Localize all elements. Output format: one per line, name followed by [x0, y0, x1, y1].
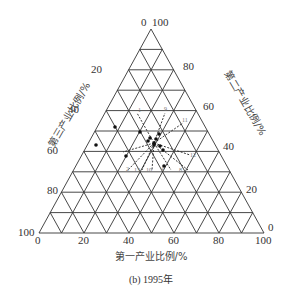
data-point	[138, 130, 142, 134]
triangle-grid	[39, 29, 264, 233]
point-label: 11	[182, 117, 188, 123]
bottom-axis-title: 第一产业比例/%	[115, 250, 188, 262]
grid-line	[107, 90, 185, 233]
data-point	[152, 143, 156, 147]
left-tick-100: 100	[18, 226, 35, 238]
right-tick-60: 60	[203, 100, 215, 112]
data-point	[154, 137, 158, 141]
point-label: 4	[161, 166, 164, 172]
point-label: 12	[190, 152, 196, 158]
grid-line	[117, 90, 196, 233]
right-tick-40: 40	[223, 140, 235, 152]
figure-caption: (b) 1995年	[129, 273, 173, 286]
bottom-tick-0: 0	[35, 234, 41, 246]
data-point	[148, 136, 152, 140]
bottom-tick-100: 100	[255, 234, 272, 246]
data-point	[158, 144, 162, 148]
bottom-tick-20: 20	[78, 234, 90, 246]
dashed-connector	[142, 143, 154, 170]
apex-label-left: 0	[141, 16, 147, 28]
right-tick-80: 80	[183, 60, 195, 72]
point-label: 8	[179, 167, 182, 173]
data-point	[161, 148, 165, 152]
data-point	[124, 154, 128, 158]
data-point	[113, 125, 117, 129]
left-tick-20: 20	[91, 63, 103, 75]
grid-line	[242, 213, 253, 233]
point-label: 10	[146, 167, 152, 173]
point-label: 2	[126, 166, 129, 172]
left-tick-80: 80	[47, 184, 59, 196]
right-tick-0: 0	[268, 221, 274, 233]
point-labels: 1248910111213	[126, 106, 196, 173]
point-label: 13	[134, 167, 140, 173]
right-axis-title: 第二产业比例/%	[222, 68, 269, 137]
ternary-diagram: 1248910111213 0 100 20 40 60 80 100 80 6…	[0, 0, 292, 291]
data-points	[94, 125, 166, 168]
data-point	[94, 143, 98, 147]
bottom-tick-60: 60	[168, 234, 180, 246]
data-point	[157, 132, 161, 136]
apex-label-right: 100	[152, 16, 169, 28]
grid-line	[50, 213, 61, 233]
point-label: 9	[164, 106, 167, 112]
bottom-tick-40: 40	[123, 234, 135, 246]
point-label: 1	[138, 107, 141, 113]
left-axis-title: 第三产业比例/%	[45, 80, 92, 149]
data-point	[146, 139, 150, 143]
bottom-tick-80: 80	[213, 234, 225, 246]
right-tick-20: 20	[246, 183, 258, 195]
